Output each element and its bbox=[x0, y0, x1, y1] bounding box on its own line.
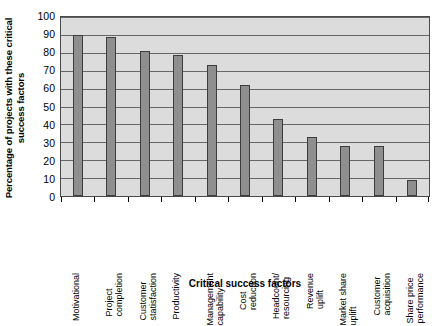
x-axis-category-label: Customeracquisition bbox=[361, 203, 394, 275]
y-axis-tick-label: 40 bbox=[43, 119, 55, 130]
x-axis-category-label: Customerstatisfaction bbox=[127, 203, 160, 275]
bar-series bbox=[61, 17, 429, 196]
y-axis-tick-label: 30 bbox=[43, 137, 55, 148]
bar-slot bbox=[94, 17, 127, 196]
x-axis-tick bbox=[161, 197, 162, 202]
y-axis-tick-label: 0 bbox=[49, 192, 55, 203]
bar[interactable] bbox=[173, 55, 183, 196]
y-axis-tick-label: 20 bbox=[43, 156, 55, 167]
bar-slot bbox=[228, 17, 261, 196]
y-axis-tick-label: 100 bbox=[37, 11, 55, 22]
x-axis-category-label: Revenueuplift bbox=[294, 203, 327, 275]
bar-slot bbox=[128, 17, 161, 196]
x-axis-title: Critical success factors bbox=[60, 278, 430, 289]
bar[interactable] bbox=[207, 65, 217, 196]
bar-slot bbox=[262, 17, 295, 196]
x-axis-category-label: Projectcompletion bbox=[93, 203, 126, 275]
bar-slot bbox=[161, 17, 194, 196]
bar-slot bbox=[295, 17, 328, 196]
x-axis-tick bbox=[228, 197, 229, 202]
bar[interactable] bbox=[374, 146, 384, 196]
x-axis-tick bbox=[428, 197, 429, 202]
x-axis-category-label: Motivational bbox=[60, 203, 93, 275]
x-axis-tick bbox=[329, 197, 330, 202]
bar-slot bbox=[195, 17, 228, 196]
bar[interactable] bbox=[73, 35, 83, 196]
bar-slot bbox=[329, 17, 362, 196]
x-axis-category-label: Market shareuplift bbox=[328, 203, 361, 275]
bar-slot bbox=[61, 17, 94, 196]
bar[interactable] bbox=[106, 37, 116, 196]
bar[interactable] bbox=[340, 146, 350, 196]
y-axis-tick-label: 50 bbox=[43, 101, 55, 112]
x-axis-tick bbox=[94, 197, 95, 202]
x-axis-category-label: Headcount/resourcing bbox=[261, 203, 294, 275]
x-axis-tick bbox=[362, 197, 363, 202]
y-axis-tick-label: 90 bbox=[43, 29, 55, 40]
bar[interactable] bbox=[307, 137, 317, 196]
x-axis-tick bbox=[128, 197, 129, 202]
bar[interactable] bbox=[140, 51, 150, 196]
x-axis-category-labels: MotivationalProjectcompletionCustomersta… bbox=[60, 203, 430, 275]
x-axis-category-label: Costreduction bbox=[227, 203, 260, 275]
y-axis-tick-label: 80 bbox=[43, 47, 55, 58]
bar-slot bbox=[396, 17, 429, 196]
plot-area bbox=[60, 16, 430, 197]
y-axis-tick-labels: 0102030405060708090100 bbox=[30, 14, 58, 197]
x-axis-tick bbox=[195, 197, 196, 202]
y-axis-tick-label: 60 bbox=[43, 83, 55, 94]
x-axis-category-label: Productivity bbox=[160, 203, 193, 275]
y-axis-tick-label: 10 bbox=[43, 174, 55, 185]
y-axis-title: Percentage of projects with these critic… bbox=[0, 8, 30, 208]
bar[interactable] bbox=[273, 119, 283, 196]
x-axis-tick bbox=[295, 197, 296, 202]
x-axis-category-label: Share priceperformance bbox=[395, 203, 428, 275]
x-axis-tick bbox=[262, 197, 263, 202]
bar-slot bbox=[362, 17, 395, 196]
x-axis-tick bbox=[396, 197, 397, 202]
bar[interactable] bbox=[407, 180, 417, 196]
y-axis-title-line-2: success factors bbox=[15, 8, 27, 208]
y-axis-tick-label: 70 bbox=[43, 65, 55, 76]
x-axis-category-label: Managementcapability bbox=[194, 203, 227, 275]
y-axis-title-line-1: Percentage of projects with these critic… bbox=[3, 8, 15, 208]
x-axis-tick bbox=[61, 197, 62, 202]
bar[interactable] bbox=[240, 85, 250, 196]
